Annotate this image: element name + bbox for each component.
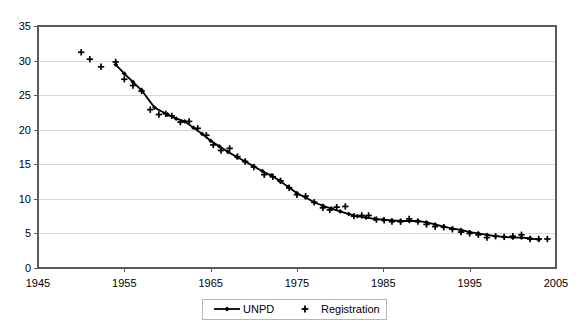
x-tick-label: 1985	[371, 277, 395, 289]
unpd-data-point	[450, 226, 455, 231]
registration-data-point	[203, 132, 209, 138]
x-tick-label: 1955	[112, 277, 136, 289]
x-tick-label: 1965	[198, 277, 222, 289]
registration-data-point	[544, 236, 550, 242]
registration-data-point	[156, 111, 162, 117]
unpd-data-line	[116, 65, 539, 240]
unpd-data-point	[519, 235, 524, 240]
gridlines-group	[38, 62, 556, 234]
legend-label-registration: Registration	[321, 303, 380, 315]
series-unpd-markers	[113, 62, 541, 242]
legend-label-unpd: UNPD	[243, 303, 274, 315]
unpd-data-point	[502, 234, 507, 239]
y-tick-label: 0	[25, 262, 31, 274]
chart-container: 05101520253035 1945195519651975198519952…	[0, 0, 585, 329]
y-tick-label: 10	[19, 193, 31, 205]
y-tick-label: 15	[19, 158, 31, 170]
y-tick-label: 20	[19, 124, 31, 136]
registration-data-point	[342, 203, 348, 209]
unpd-data-point	[355, 214, 360, 219]
y-tick-label: 35	[19, 20, 31, 32]
series-registration-markers	[78, 49, 551, 242]
registration-data-point	[98, 64, 104, 70]
x-tick-label: 2005	[544, 277, 568, 289]
chart-svg: 05101520253035 1945195519651975198519952…	[0, 0, 585, 329]
chart-legend[interactable]: UNPDRegistration	[203, 300, 387, 320]
y-axis-tick-labels: 05101520253035	[19, 20, 38, 274]
unpd-data-point	[398, 219, 403, 224]
unpd-data-point	[415, 219, 420, 224]
series-unpd-line	[116, 65, 539, 240]
x-tick-label: 1945	[26, 277, 50, 289]
unpd-data-point	[441, 224, 446, 229]
unpd-data-point	[346, 212, 351, 217]
unpd-data-point	[528, 236, 533, 241]
unpd-data-point	[536, 237, 541, 242]
x-axis-tick-labels: 1945195519651975198519952005	[26, 268, 568, 289]
y-tick-label: 30	[19, 55, 31, 67]
registration-data-point	[78, 49, 84, 55]
y-tick-label: 5	[25, 227, 31, 239]
y-tick-label: 25	[19, 89, 31, 101]
unpd-data-point	[493, 234, 498, 239]
unpd-data-point	[338, 209, 343, 214]
x-tick-label: 1995	[457, 277, 481, 289]
x-tick-label: 1975	[285, 277, 309, 289]
